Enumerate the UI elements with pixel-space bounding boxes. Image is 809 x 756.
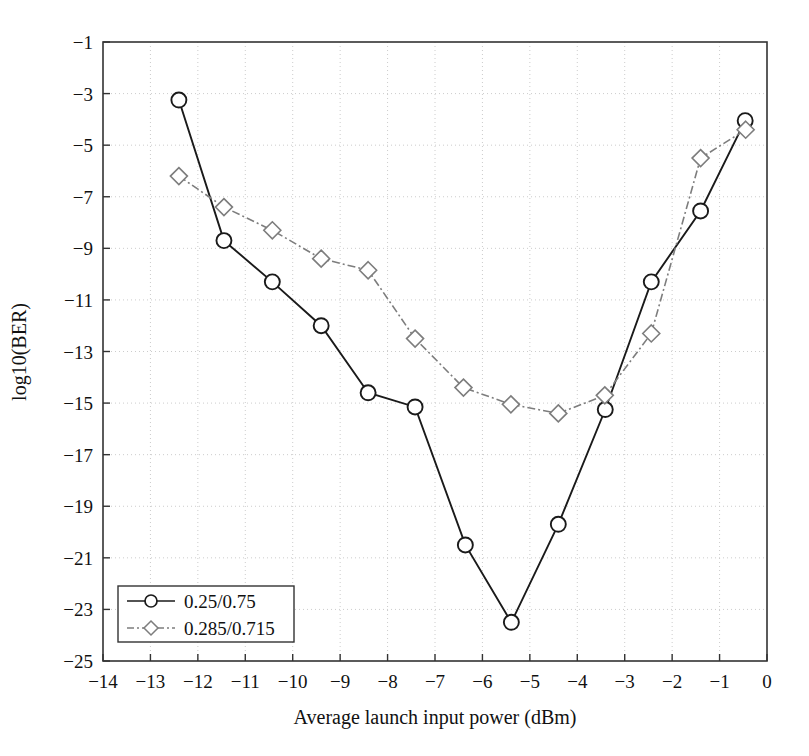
data-point-circle xyxy=(265,274,280,289)
x-tick-label: −5 xyxy=(520,671,540,692)
data-point-circle xyxy=(458,537,473,552)
data-point-circle xyxy=(693,203,708,218)
x-tick-label: −3 xyxy=(615,671,635,692)
y-tick-label: −3 xyxy=(73,84,93,105)
data-point-circle xyxy=(314,318,329,333)
x-tick-label: 0 xyxy=(762,671,772,692)
legend-label-0: 0.25/0.75 xyxy=(184,591,256,612)
x-tick-label: −6 xyxy=(472,671,492,692)
y-tick-label: −19 xyxy=(63,496,93,517)
y-tick-label: −1 xyxy=(73,32,93,53)
data-point-diamond xyxy=(502,396,519,413)
x-tick-label: −4 xyxy=(567,671,588,692)
x-axis-label: Average launch input power (dBm) xyxy=(294,706,577,729)
y-tick-label: −23 xyxy=(63,599,93,620)
data-point-diamond xyxy=(550,405,567,422)
series-1 xyxy=(170,121,754,422)
x-tick-label: −7 xyxy=(425,671,445,692)
x-tick-label: −9 xyxy=(330,671,350,692)
y-tick-label: −17 xyxy=(63,445,93,466)
data-point-diamond xyxy=(692,150,709,167)
x-tick-label: −14 xyxy=(88,671,118,692)
x-tick-label: −13 xyxy=(136,671,166,692)
x-tick-label: −12 xyxy=(183,671,213,692)
series-0 xyxy=(171,93,752,630)
y-tick-label: −21 xyxy=(63,548,93,569)
data-point-circle xyxy=(171,93,186,108)
legend[interactable]: 0.25/0.75 0.285/0.715 xyxy=(118,586,294,642)
plot-area: −14−13−12−11−10−9−8−7−6−5−4−3−2−10 −25−2… xyxy=(0,0,809,756)
series-line xyxy=(179,130,746,414)
x-tick-label: −10 xyxy=(278,671,308,692)
data-point-circle xyxy=(216,233,231,248)
data-point-diamond xyxy=(170,168,187,185)
y-tick-label: −9 xyxy=(73,238,93,259)
data-point-circle xyxy=(361,385,376,400)
chart-figure: −14−13−12−11−10−9−8−7−6−5−4−3−2−10 −25−2… xyxy=(0,0,809,756)
data-point-diamond xyxy=(264,222,281,239)
gridlines xyxy=(103,42,767,661)
x-tick-label: −2 xyxy=(662,671,682,692)
legend-label-1: 0.285/0.715 xyxy=(184,618,275,639)
x-tick-label: −1 xyxy=(709,671,729,692)
y-tick-label: −11 xyxy=(64,290,93,311)
y-tick-label: −15 xyxy=(63,393,93,414)
y-tick-label: −7 xyxy=(73,187,93,208)
data-point-circle xyxy=(644,274,659,289)
data-point-circle xyxy=(408,399,423,414)
y-tick-label: −5 xyxy=(73,135,93,156)
x-tick-label: −11 xyxy=(231,671,260,692)
data-point-diamond xyxy=(215,199,232,216)
data-point-circle xyxy=(504,615,519,630)
data-point-circle xyxy=(551,517,566,532)
data-point-diamond xyxy=(596,387,613,404)
data-point-diamond xyxy=(360,262,377,279)
data-point-diamond xyxy=(643,325,660,342)
x-tick-label: −8 xyxy=(377,671,397,692)
y-tick-label: −25 xyxy=(63,651,93,672)
legend-circle-icon xyxy=(145,595,157,607)
data-series-layer xyxy=(170,93,754,630)
x-axis-ticks: −14−13−12−11−10−9−8−7−6−5−4−3−2−10 xyxy=(88,654,772,692)
y-axis-label: log10(BER) xyxy=(8,303,31,401)
y-tick-label: −13 xyxy=(63,342,93,363)
data-point-diamond xyxy=(313,250,330,267)
